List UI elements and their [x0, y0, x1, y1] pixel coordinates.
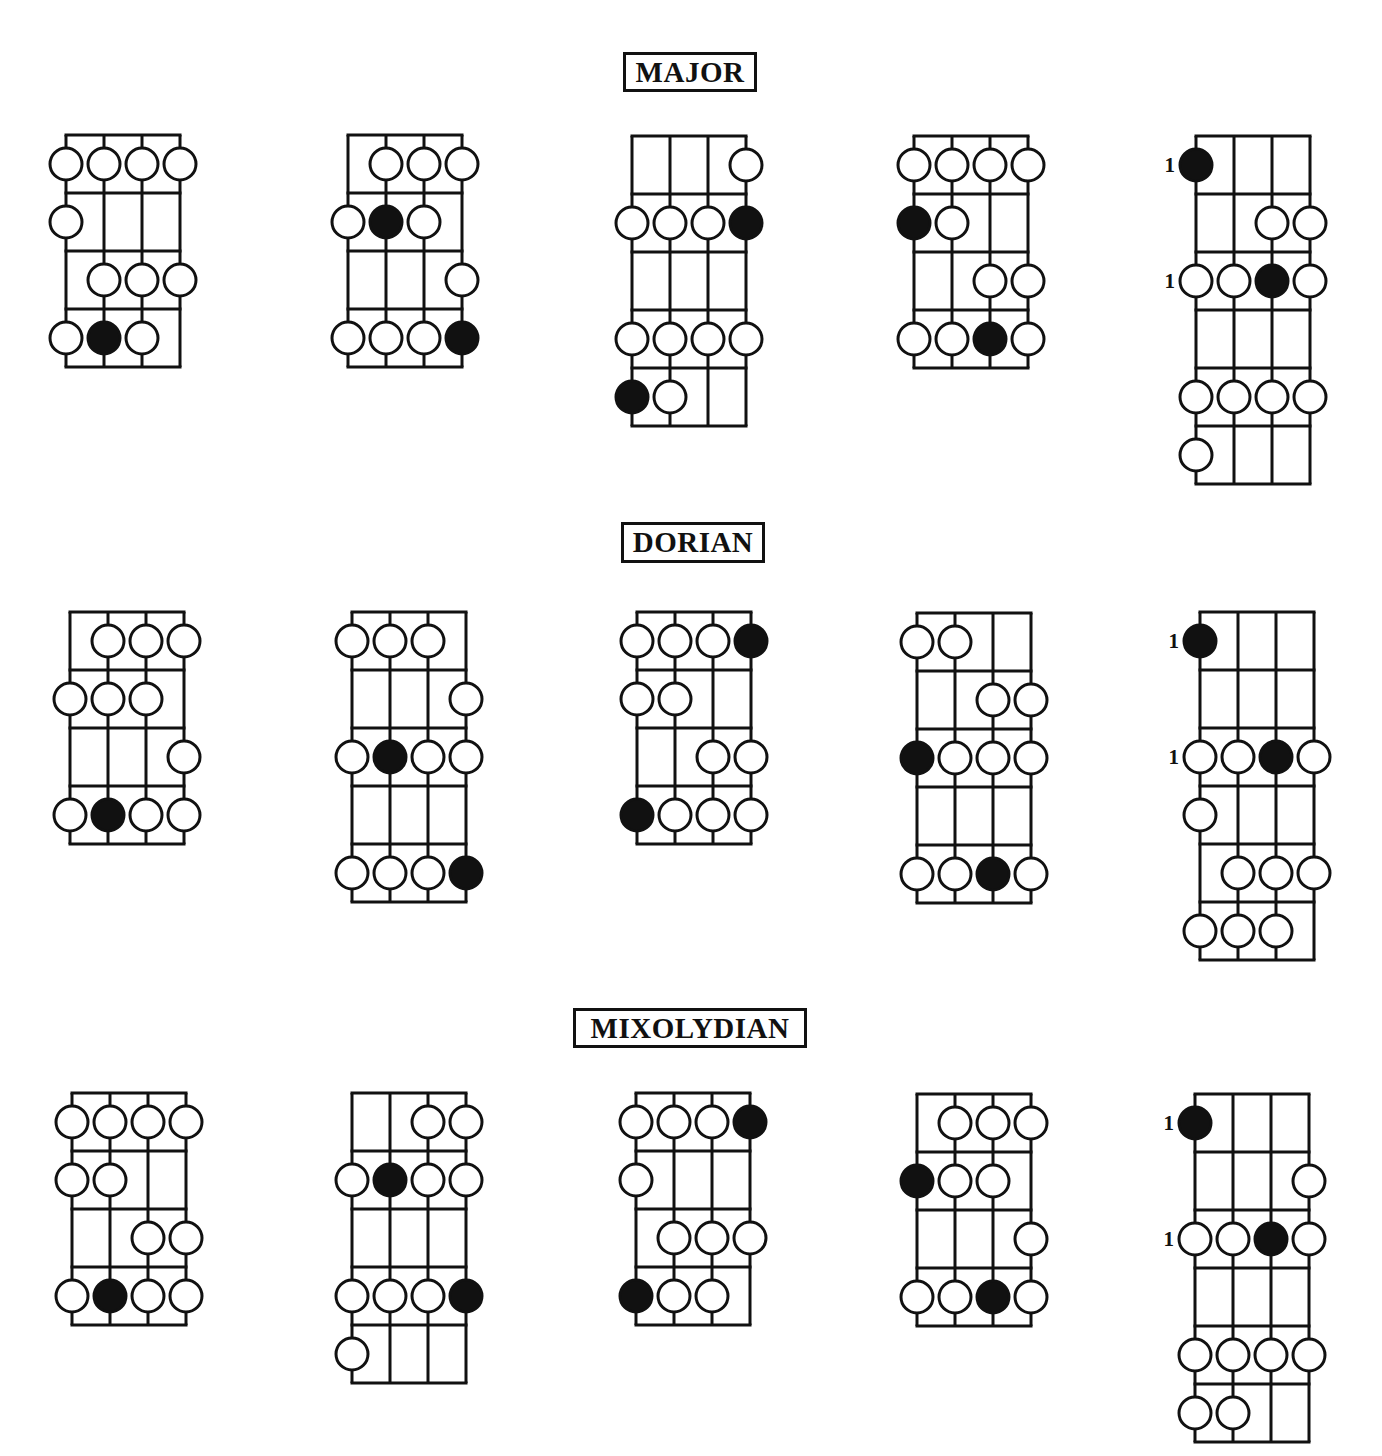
scale-note-dot [1260, 915, 1292, 947]
scale-note-dot [730, 323, 762, 355]
scale-note-dot [1294, 265, 1326, 297]
scale-note-dot [735, 741, 767, 773]
scale-note-dot [1298, 857, 1330, 889]
scale-note-dot [1184, 915, 1216, 947]
scale-note-dot [659, 625, 691, 657]
scale-note-dot [170, 1280, 202, 1312]
fretboard-dorian-3 [621, 612, 767, 844]
scale-note-dot [696, 1106, 728, 1138]
fretboard-major-2 [332, 135, 478, 367]
scale-note-dot [50, 322, 82, 354]
root-note-dot [974, 323, 1006, 355]
scale-note-dot [974, 265, 1006, 297]
scale-note-dot [1217, 1223, 1249, 1255]
scale-note-dot [659, 799, 691, 831]
scale-note-dot [939, 1165, 971, 1197]
scale-note-dot [620, 1106, 652, 1138]
scale-note-dot [1184, 799, 1216, 831]
scale-note-dot [1179, 1223, 1211, 1255]
scale-note-dot [412, 741, 444, 773]
scale-note-dot [130, 799, 162, 831]
scale-note-dot [170, 1222, 202, 1254]
scale-note-dot [1179, 1397, 1211, 1429]
scale-note-dot [1179, 1339, 1211, 1371]
scale-note-dot [620, 1164, 652, 1196]
scale-note-dot [336, 1280, 368, 1312]
root-note-dot [735, 625, 767, 657]
scale-note-dot [374, 1280, 406, 1312]
root-note-dot [1179, 1107, 1211, 1139]
scale-note-dot [164, 148, 196, 180]
scale-note-dot [1012, 149, 1044, 181]
scale-note-dot [336, 625, 368, 657]
scale-note-dot [408, 148, 440, 180]
finger-number-label: 1 [1165, 153, 1176, 177]
root-note-dot [898, 207, 930, 239]
scale-note-dot [412, 1280, 444, 1312]
scale-note-dot [658, 1106, 690, 1138]
scale-note-dot [374, 625, 406, 657]
root-note-dot [621, 799, 653, 831]
scale-note-dot [1294, 381, 1326, 413]
fretboard-mixolydian-2 [336, 1093, 482, 1383]
root-note-dot [977, 1281, 1009, 1313]
scale-note-dot [132, 1222, 164, 1254]
scale-note-dot [130, 625, 162, 657]
fretboard-dorian-1 [54, 612, 200, 844]
fretboard-mixolydian-5: 11 [1164, 1094, 1326, 1442]
scale-note-dot [696, 1222, 728, 1254]
scale-note-dot [88, 264, 120, 296]
scale-note-dot [977, 742, 1009, 774]
root-note-dot [901, 742, 933, 774]
scale-note-dot [1015, 1281, 1047, 1313]
root-note-dot [446, 322, 478, 354]
scale-note-dot [621, 683, 653, 715]
scale-note-dot [370, 322, 402, 354]
scale-note-dot [412, 1164, 444, 1196]
scale-note-dot [1015, 1107, 1047, 1139]
root-note-dot [977, 858, 1009, 890]
scale-note-dot [1298, 741, 1330, 773]
fretboard-dorian-5: 11 [1169, 612, 1331, 960]
root-note-dot [1256, 265, 1288, 297]
scale-note-dot [654, 323, 686, 355]
scale-note-dot [901, 1281, 933, 1313]
scale-note-dot [126, 264, 158, 296]
scale-note-dot [1012, 323, 1044, 355]
scale-note-dot [92, 683, 124, 715]
root-note-dot [620, 1280, 652, 1312]
scale-note-dot [1222, 741, 1254, 773]
scale-note-dot [1222, 857, 1254, 889]
scale-note-dot [370, 148, 402, 180]
scale-note-dot [50, 206, 82, 238]
scale-note-dot [939, 1107, 971, 1139]
scale-note-dot [692, 323, 724, 355]
finger-number-label: 1 [1165, 269, 1176, 293]
scale-note-dot [1256, 207, 1288, 239]
scale-note-dot [730, 149, 762, 181]
root-note-dot [616, 381, 648, 413]
scale-note-dot [1260, 857, 1292, 889]
scale-note-dot [977, 684, 1009, 716]
scale-note-dot [939, 742, 971, 774]
scale-note-dot [126, 148, 158, 180]
scale-note-dot [126, 322, 158, 354]
scale-note-dot [898, 323, 930, 355]
scale-note-dot [977, 1107, 1009, 1139]
root-note-dot [1255, 1223, 1287, 1255]
scale-note-dot [936, 323, 968, 355]
scale-note-dot [374, 857, 406, 889]
scale-note-dot [1255, 1339, 1287, 1371]
scale-note-dot [450, 1164, 482, 1196]
scale-note-dot [446, 264, 478, 296]
root-note-dot [901, 1165, 933, 1197]
scale-note-dot [170, 1106, 202, 1138]
fretboard-major-1 [50, 135, 196, 367]
fretboard-major-3 [616, 136, 762, 426]
scale-note-dot [54, 683, 86, 715]
root-note-dot [1260, 741, 1292, 773]
scale-note-dot [734, 1222, 766, 1254]
fretboard-mixolydian-1 [56, 1093, 202, 1325]
scale-note-dot [616, 207, 648, 239]
scale-note-dot [412, 857, 444, 889]
